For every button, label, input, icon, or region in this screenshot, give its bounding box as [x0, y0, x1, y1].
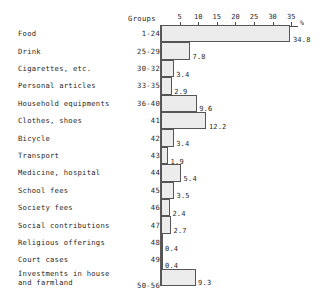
bar-row[interactable]: Personal articles33-352.9 — [0, 77, 322, 94]
axis-tick-label-35: 35 — [287, 13, 295, 21]
groups-column-header: Groups — [128, 14, 156, 23]
group-number-label: 46 — [0, 203, 160, 212]
bar[interactable] — [161, 25, 290, 42]
bar[interactable] — [161, 164, 181, 181]
group-number-label: 30-32 — [0, 64, 160, 73]
group-number-label: 42 — [0, 134, 160, 143]
bar[interactable] — [161, 199, 170, 216]
bar-row[interactable]: Society fees462.4 — [0, 199, 322, 216]
group-number-label: 47 — [0, 221, 160, 230]
bar[interactable] — [161, 42, 190, 59]
bar[interactable] — [161, 77, 172, 94]
group-number-label: 49 — [0, 255, 160, 264]
bar[interactable] — [161, 182, 174, 199]
bar-row[interactable]: Food1-2434.8 — [0, 25, 322, 42]
bar[interactable] — [161, 95, 197, 112]
bar[interactable] — [161, 251, 163, 268]
group-number-label: 48 — [0, 238, 160, 247]
bar-row[interactable]: Medicine, hospital445.4 — [0, 164, 322, 181]
bar[interactable] — [161, 112, 206, 129]
bar-row[interactable]: Bicycle423.4 — [0, 129, 322, 146]
bar-row[interactable]: School fees453.5 — [0, 182, 322, 199]
axis-tick-label-20: 20 — [231, 13, 239, 21]
bar[interactable] — [161, 216, 171, 233]
axis-tick-label-30: 30 — [268, 13, 276, 21]
bar-row[interactable]: Household equipments36-409.6 — [0, 95, 322, 112]
axis-tick-label-15: 15 — [213, 13, 221, 21]
bar-row[interactable]: Social contributions472.7 — [0, 216, 322, 233]
bar-value-label: 9.3 — [198, 279, 211, 287]
bar-row[interactable]: Court cases490.4 — [0, 251, 322, 268]
bar[interactable] — [161, 234, 163, 251]
bar-row[interactable]: Clothes, shoes4112.2 — [0, 112, 322, 129]
group-number-label: 25-29 — [0, 47, 160, 56]
group-number-label: 45 — [0, 186, 160, 195]
group-number-label: 33-35 — [0, 81, 160, 90]
group-number-label: 41 — [0, 116, 160, 125]
expenditure-bar-chart: Groups 5101520253035 % Food1-2434.8Drink… — [0, 0, 322, 303]
group-number-label: 1-24 — [0, 29, 160, 38]
axis-tick-label-25: 25 — [250, 13, 258, 21]
bar[interactable] — [161, 269, 196, 286]
bar-row[interactable]: Religious offerings480.4 — [0, 234, 322, 251]
group-number-label: 50-56 — [0, 281, 160, 290]
bar-row[interactable]: Drink25-297.8 — [0, 42, 322, 59]
bar-row[interactable]: Investments in house and farmland50-569.… — [0, 269, 322, 286]
bar[interactable] — [161, 129, 174, 146]
group-number-label: 43 — [0, 151, 160, 160]
bar-row[interactable]: Transport431.9 — [0, 147, 322, 164]
axis-tick-label-5: 5 — [177, 13, 181, 21]
bar[interactable] — [161, 147, 168, 164]
group-number-label: 44 — [0, 168, 160, 177]
bar-row[interactable]: Cigarettes, etc.30-323.4 — [0, 60, 322, 77]
group-number-label: 36-40 — [0, 99, 160, 108]
bar[interactable] — [161, 60, 174, 77]
axis-tick-label-10: 10 — [194, 13, 202, 21]
